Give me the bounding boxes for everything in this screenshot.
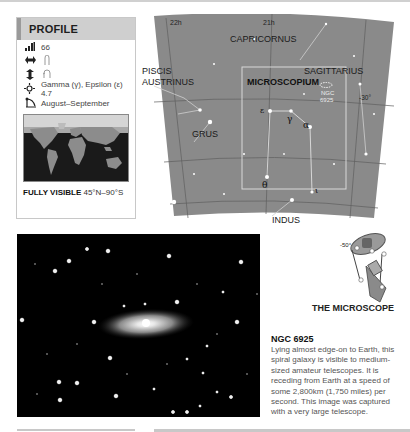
season-icon: [24, 97, 36, 110]
profile-panel: PROFILE 66 Gamma (γ), Epsilon (ε) 4.7 A: [16, 17, 136, 219]
profile-title: PROFILE: [29, 23, 78, 35]
star-theta: θ: [262, 180, 267, 190]
brightest-star-icon: [24, 83, 36, 96]
height-arrows-icon: [24, 69, 36, 82]
label-indus: INDUS: [272, 215, 300, 225]
profile-row-width: [17, 54, 135, 68]
label-grus: GRUS: [192, 129, 218, 139]
star-iota: ι: [315, 186, 318, 195]
star-epsilon: ε: [260, 106, 264, 115]
size-rank: 66: [41, 43, 50, 52]
dec-label-30: -30°: [359, 94, 371, 101]
size-bars-icon: [24, 42, 36, 53]
profile-row-size: 66: [17, 40, 135, 54]
ra-label-21h: 21h: [263, 19, 275, 26]
visibility-world-map: [23, 114, 129, 182]
profile-header: PROFILE: [17, 18, 135, 40]
star-chart: 22h 21h -30° -50° CAPRICORNUS SAGITTARIU…: [154, 14, 394, 220]
microscope-illustration: [344, 232, 402, 304]
star-gamma: γ: [287, 114, 292, 124]
hand-span-icon: [41, 55, 53, 67]
ngc-label: NGC: [321, 90, 334, 96]
best-months: August–September: [41, 99, 110, 108]
ngc-number: 6925: [320, 97, 333, 103]
label-sagittarius: SAGITTARIUS: [304, 66, 363, 76]
world-continents: [24, 115, 129, 181]
microscope-caption: THE MICROSCOPE: [312, 303, 394, 313]
label-austrinus: AUSTRINUS: [142, 77, 194, 87]
width-arrows-icon: [24, 56, 36, 66]
ngc-body: Lying almost edge-on to Earth, this spir…: [271, 345, 406, 418]
profile-row-season: August–September: [17, 96, 135, 110]
visibility-label: FULLY VISIBLE: [23, 188, 81, 197]
bottom-rule-left: [17, 429, 135, 431]
visibility-range: 45°N–90°S: [83, 188, 123, 197]
label-piscis: PISCIS: [142, 66, 172, 76]
label-capricornus: CAPRICORNUS: [230, 34, 297, 44]
ngc-title: NGC 6925: [271, 334, 406, 344]
ra-label-22h: 22h: [170, 19, 182, 26]
profile-row-brightest: Gamma (γ), Epsilon (ε) 4.7: [17, 82, 135, 96]
top-rule: [0, 0, 410, 2]
brightest-stars: Gamma (γ), Epsilon (ε) 4.7: [41, 80, 135, 98]
star-alpha: α: [303, 120, 309, 130]
galaxy-photo: [17, 234, 260, 417]
ngc-article: NGC 6925 Lying almost edge-on to Earth, …: [271, 334, 406, 418]
label-microscopium: MICROSCOPIUM: [247, 77, 319, 87]
visibility-info: FULLY VISIBLE 45°N–90°S: [23, 188, 135, 197]
